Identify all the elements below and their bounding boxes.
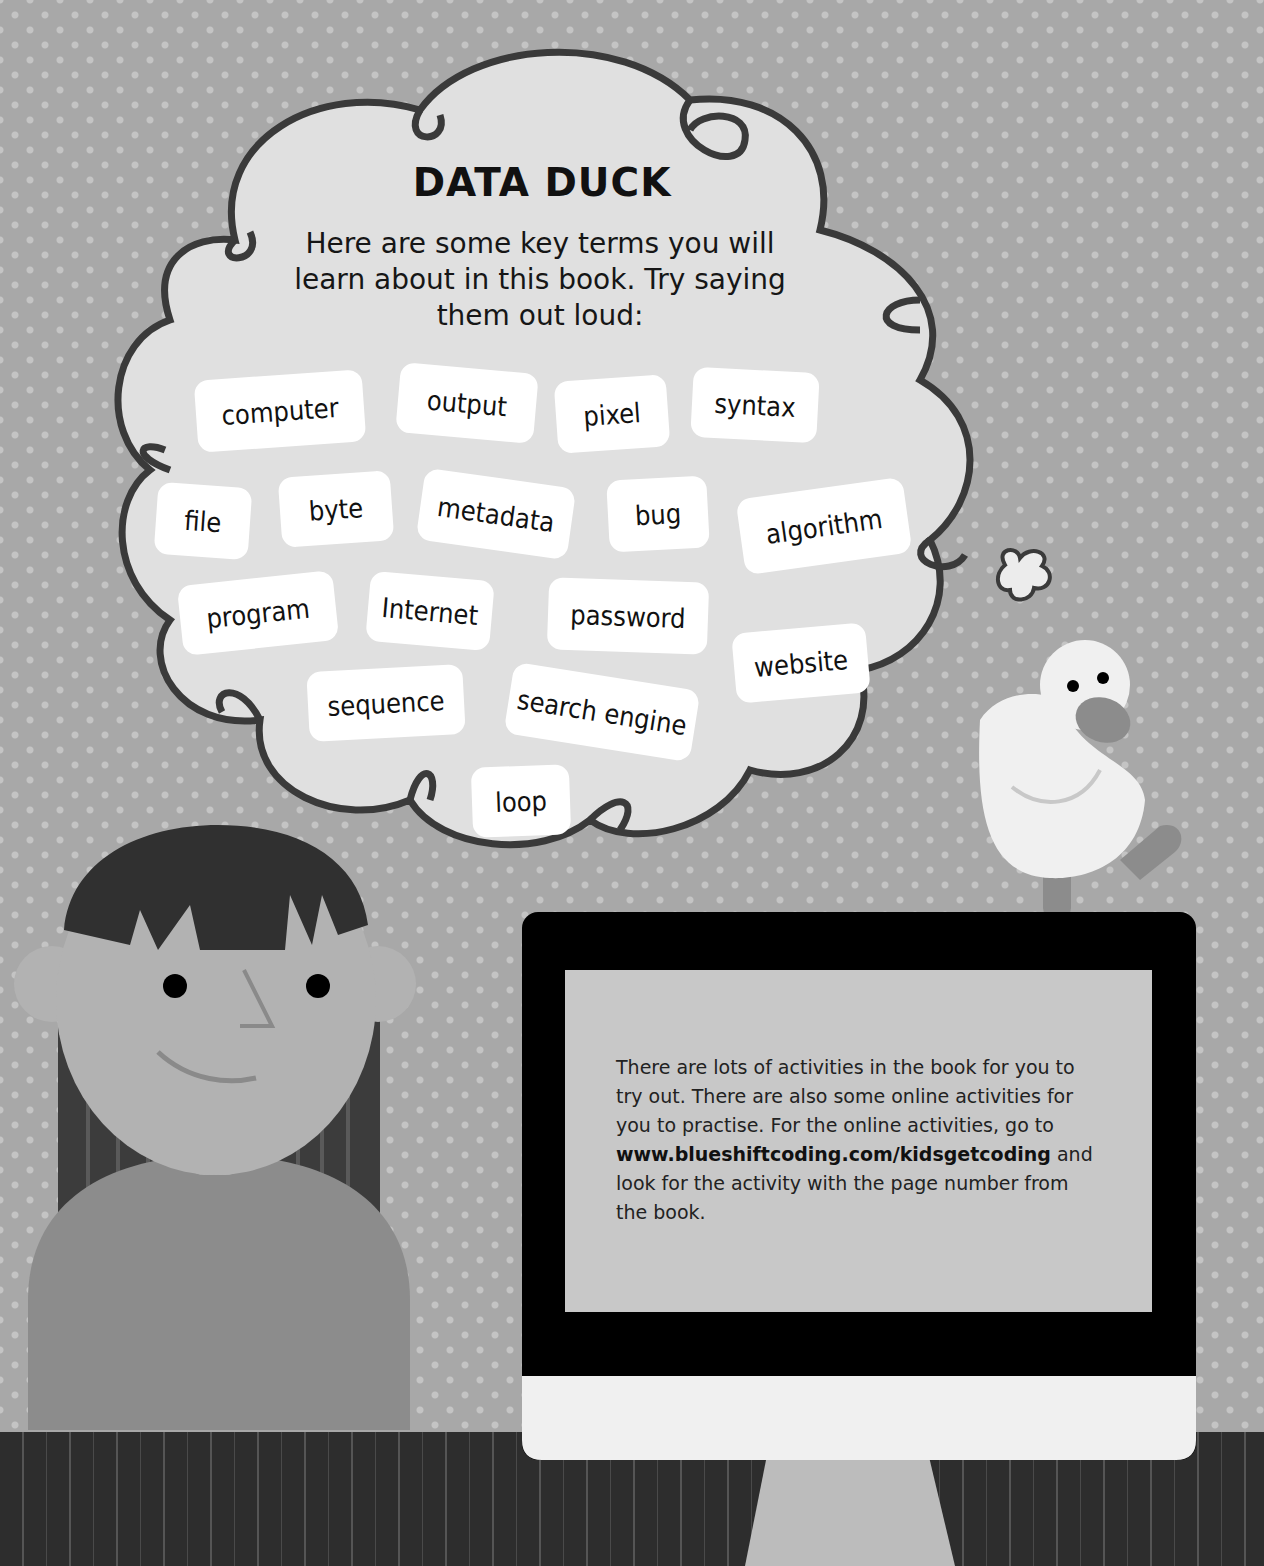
computer-monitor [522,912,1196,1566]
key-term-tag: Internet [365,571,495,652]
key-term-tag: loop [471,764,571,837]
key-term-tag: syntax [690,367,819,443]
bubble-title: DATA DUCK [0,160,1084,205]
key-term-tag: sequence [306,664,465,742]
activities-link[interactable]: www.blueshiftcoding.com/kidsgetcoding [616,1143,1051,1165]
monitor-screen-text: There are lots of activities in the book… [616,1053,1104,1227]
key-term-tag: file [154,482,253,560]
key-term-tag: byte [278,470,395,548]
bubble-intro-text: Here are some key terms you will learn a… [290,226,790,334]
duck-character [979,640,1181,918]
key-term-tag: computer [194,369,367,453]
small-thought-puff [998,550,1050,600]
key-term-tag: website [731,622,871,703]
screen-text-intro: There are lots of activities in the book… [616,1056,1075,1136]
key-term-tag: output [395,362,539,444]
key-term-tag: bug [606,475,710,552]
key-term-tag: password [547,577,709,655]
key-term-tag: pixel [554,374,671,454]
girl-character [14,825,416,1430]
